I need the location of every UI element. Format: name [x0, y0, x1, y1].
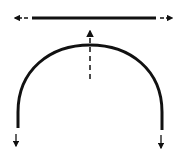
diagram-canvas [0, 0, 179, 157]
arch-force-diagram [0, 0, 179, 157]
